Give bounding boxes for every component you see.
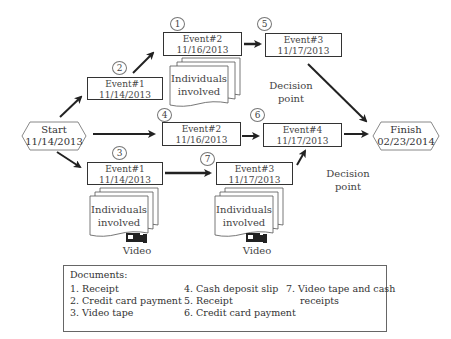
video-label-right: Video <box>237 244 277 257</box>
marker-7: 7 <box>200 152 215 166</box>
decision-point-bottom: Decision point <box>322 167 374 193</box>
marker-1: 1 <box>170 17 185 31</box>
marker-2: 2 <box>112 61 127 75</box>
event-name: Event#1 <box>88 164 162 175</box>
documents-column-1: 1. Receipt 2. Credit card payment 3. Vid… <box>70 283 182 319</box>
marker-3: 3 <box>112 146 127 160</box>
event-date: 11/14/2013 <box>88 175 162 186</box>
start-date: 11/14/2013 <box>22 136 86 148</box>
event-date: 11/16/2013 <box>164 45 241 56</box>
video-camera-icon <box>126 233 147 243</box>
marker-5: 5 <box>257 17 272 31</box>
event-name: Event#2 <box>164 34 241 45</box>
document-item: receipts <box>286 295 395 307</box>
document-item: 1. Receipt <box>70 283 182 295</box>
individuals-involved-bottom-left: Individuals involved <box>90 203 148 229</box>
documents-legend: Documents: 1. Receipt 2. Credit card pay… <box>63 265 387 332</box>
event-box-top-event3: Event#3 11/17/2013 <box>265 33 342 57</box>
document-item: 3. Video tape <box>70 307 182 319</box>
event-name: Event#3 <box>266 35 341 46</box>
document-item: 2. Credit card payment <box>70 295 182 307</box>
start-label: Start <box>22 124 86 136</box>
event-box-bottom-event1: Event#1 11/14/2013 <box>87 162 163 185</box>
event-box-mid-event2: Event#2 11/16/2013 <box>162 122 241 146</box>
event-box-top-event2: Event#2 11/16/2013 <box>163 32 242 56</box>
decision-point-top: Decision point <box>265 79 317 105</box>
event-name: Event#4 <box>264 125 341 136</box>
document-item: 4. Cash deposit slip <box>184 283 296 295</box>
event-box-mid-event4: Event#4 11/17/2013 <box>263 123 342 147</box>
document-item: 7. Video tape and cash <box>286 283 395 295</box>
documents-title: Documents: <box>70 269 127 281</box>
document-item: 5. Receipt <box>184 295 296 307</box>
individuals-involved-bottom-mid: Individuals involved <box>215 203 273 229</box>
video-label-left: Video <box>117 244 157 257</box>
finish-node: Finish 02/23/2014 <box>373 123 439 151</box>
event-box-bottom-event3: Event#3 11/17/2013 <box>216 162 293 185</box>
event-name: Event#2 <box>163 124 240 135</box>
event-date: 11/16/2013 <box>163 135 240 146</box>
event-date: 11/17/2013 <box>264 136 341 147</box>
individuals-involved-top: Individuals involved <box>170 72 228 98</box>
finish-date: 02/23/2014 <box>373 136 439 148</box>
event-date: 11/17/2013 <box>266 46 341 57</box>
documents-column-3: 7. Video tape and cash receipts <box>286 283 395 307</box>
event-name: Event#3 <box>217 164 292 175</box>
marker-4: 4 <box>157 108 172 122</box>
event-date: 11/17/2013 <box>217 175 292 186</box>
video-camera-icon <box>246 233 267 243</box>
finish-label: Finish <box>373 124 439 136</box>
event-box-top-event1: Event#1 11/14/2013 <box>87 77 163 100</box>
marker-6: 6 <box>250 108 265 122</box>
documents-column-2: 4. Cash deposit slip 5. Receipt 6. Credi… <box>184 283 296 319</box>
event-name: Event#1 <box>88 79 162 90</box>
event-date: 11/14/2013 <box>88 90 162 101</box>
document-item: 6. Credit card payment <box>184 307 296 319</box>
start-node: Start 11/14/2013 <box>22 123 86 151</box>
